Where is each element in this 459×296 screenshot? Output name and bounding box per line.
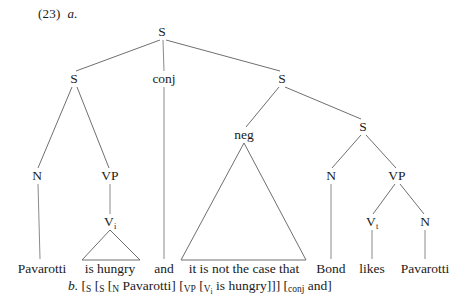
- bracket-token: and]: [304, 278, 331, 293]
- node-left-s: S: [69, 72, 80, 86]
- node-inner-s: S: [358, 120, 369, 134]
- node-subscript: i: [114, 221, 116, 231]
- bracket-subscript: S: [99, 284, 104, 294]
- triangle-is-hungry: [82, 230, 140, 260]
- terminal-word: is hungry: [85, 262, 136, 276]
- bracket-token: [: [91, 278, 99, 293]
- bracket-token: is hungry]]] [: [213, 278, 288, 293]
- terminal-text: likes: [359, 261, 385, 276]
- node-right-s: S: [277, 72, 288, 86]
- node-label: S: [70, 71, 78, 86]
- edge-inner-vp-to-vt: [373, 184, 395, 214]
- edge-root-to-conj: [163, 40, 164, 71]
- syntax-tree-figure: (23)a.: [0, 0, 459, 296]
- node-inner-n: N: [325, 169, 338, 183]
- edge-inner-s-to-n: [332, 135, 361, 168]
- node-inner-vp: VP: [387, 169, 407, 183]
- terminal-text: Pavarotti: [18, 261, 67, 276]
- node-label: S: [278, 71, 286, 86]
- node-left-n: N: [31, 169, 44, 183]
- bracket-token: [: [196, 278, 204, 293]
- edge-left-s-to-vp: [77, 87, 109, 168]
- node-label: S: [359, 119, 367, 134]
- edge-left-s-to-n: [38, 87, 72, 168]
- node-left-vi: Vi: [102, 215, 117, 229]
- bracket-subscript-index: i: [211, 287, 213, 296]
- terminal-text: Pavarotti: [401, 261, 450, 276]
- terminal-word: it is not the case that: [189, 262, 300, 276]
- terminal-word: and: [154, 262, 174, 276]
- node-label: conj: [152, 71, 175, 86]
- bracket-subscript: N: [112, 284, 119, 294]
- edge-right-s-to-inner-s: [285, 87, 361, 119]
- terminal-text: is hungry: [85, 261, 136, 276]
- edge-root-to-right-s: [166, 40, 280, 71]
- node-subscript: t: [376, 221, 378, 231]
- bracket-token: Pavarotti] [: [119, 278, 183, 293]
- node-label: VP: [101, 168, 118, 183]
- terminal-word: likes: [359, 262, 385, 276]
- node-conj: conj: [151, 72, 177, 86]
- node-label: V: [104, 214, 114, 229]
- bracket-subscript-vi: Vi: [204, 284, 213, 294]
- node-left-vp: VP: [100, 169, 120, 183]
- node-label: N: [326, 168, 336, 183]
- node-root-s: S: [157, 25, 168, 39]
- edge-root-to-left-s: [76, 40, 160, 71]
- edge-left-n-to-terminal: [38, 184, 40, 259]
- node-neg: neg: [233, 128, 256, 142]
- node-label: N: [32, 168, 42, 183]
- bracket-subscript: VP: [184, 284, 196, 294]
- edge-inner-vp-to-n: [400, 184, 424, 214]
- terminal-word: Bond: [316, 262, 345, 276]
- node-inner-n2: N: [419, 215, 432, 229]
- edge-inner-s-to-vp: [366, 135, 396, 168]
- terminal-text: and: [154, 261, 174, 276]
- triangle-neg-phrase: [181, 143, 306, 260]
- node-inner-vt: Vt: [364, 215, 379, 229]
- terminal-text: Bond: [316, 261, 345, 276]
- bracket-subscript: conj: [288, 284, 304, 294]
- tree-edges: [0, 0, 459, 296]
- labeled-bracket-notation: b. [S [S [N Pavarotti] [VP [Vi is hungry…: [68, 279, 332, 293]
- bracket-subscript: S: [86, 284, 91, 294]
- terminal-text: it is not the case that: [189, 261, 300, 276]
- node-label: neg: [234, 127, 254, 142]
- bracket-subscript-base: V: [204, 284, 211, 294]
- node-label: V: [366, 214, 376, 229]
- terminal-word: Pavarotti: [18, 262, 67, 276]
- node-label: N: [420, 214, 430, 229]
- terminal-word: Pavarotti: [401, 262, 450, 276]
- node-label: VP: [388, 168, 405, 183]
- example-sub-label-b: b.: [68, 278, 78, 293]
- node-label: S: [158, 24, 166, 39]
- edge-right-s-to-neg: [246, 87, 279, 127]
